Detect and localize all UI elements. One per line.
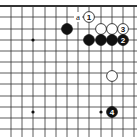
white-stone <box>107 24 118 35</box>
black-stone <box>96 35 107 46</box>
move-number: 3 <box>121 25 126 34</box>
point-marker-label: a <box>76 12 80 22</box>
star-point <box>31 110 34 113</box>
move-number: 2 <box>121 36 126 45</box>
white-stone <box>96 24 107 35</box>
star-point <box>31 38 34 41</box>
star-point <box>99 110 102 113</box>
black-stone <box>84 35 95 46</box>
go-board: a1324 <box>0 0 137 137</box>
move-number: 1 <box>87 13 92 22</box>
board-svg: a1324 <box>0 0 137 137</box>
white-stone <box>107 71 118 82</box>
black-stone <box>107 35 118 46</box>
black-stone <box>62 24 73 35</box>
move-number: 4 <box>110 108 115 117</box>
